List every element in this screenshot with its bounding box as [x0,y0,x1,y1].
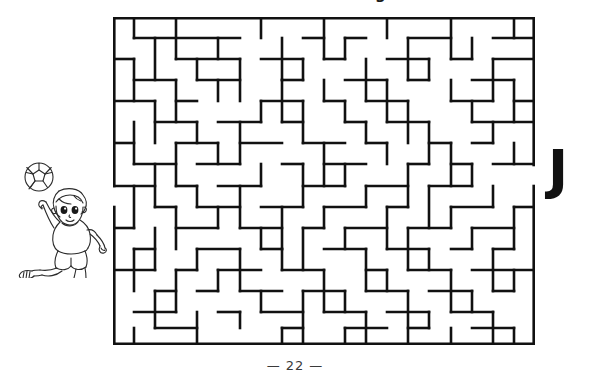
maze-container [113,17,535,345]
exit-letter-j: J [548,143,582,199]
page-title: Mazes and Coloring [0,0,590,3]
page-number: 22 [286,358,305,373]
extended-arm [90,234,106,253]
footer-dash-right: — [304,358,328,373]
torso-shirt [53,220,97,254]
maze-grid [113,17,535,345]
mascot-illustration [12,158,108,278]
page-title-clipped: Mazes and Coloring [0,0,590,5]
worksheet-page: Mazes and Coloring [0,0,590,380]
soccer-ball-icon [25,163,53,191]
page-footer: —22— [0,358,590,373]
legs [19,268,86,278]
footer-dash-left: — [262,358,286,373]
